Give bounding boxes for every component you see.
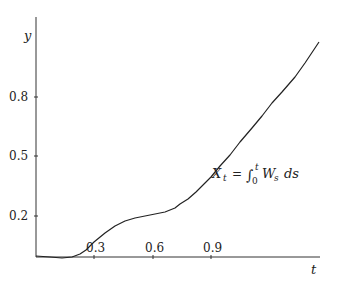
svg-text:t: t (223, 173, 227, 183)
y-tick-label-0.5: 0.5 (9, 149, 28, 163)
svg-text:0: 0 (252, 176, 258, 186)
x-tick-label-0.3: 0.3 (86, 241, 105, 255)
svg-text:X: X (211, 166, 222, 181)
series-line-X_t (36, 42, 319, 258)
x-axis-label: t (311, 262, 317, 277)
y-axis-label: y (23, 28, 32, 43)
y-tick-label-0.8: 0.8 (9, 90, 28, 104)
svg-text:t: t (255, 162, 259, 172)
y-tick-label-0.2: 0.2 (9, 209, 28, 223)
svg-text:s: s (274, 173, 279, 183)
curve-annotation: X t = ∫ t 0 W s ds (211, 162, 299, 186)
svg-text:ds: ds (284, 166, 299, 181)
line-chart: y t 0.8 0.5 0.2 0.3 0.6 0.9 X t = ∫ t 0 … (0, 0, 337, 282)
svg-text:=: = (232, 167, 242, 181)
x-tick-label-0.9: 0.9 (203, 241, 222, 255)
x-tick-label-0.6: 0.6 (145, 241, 164, 255)
